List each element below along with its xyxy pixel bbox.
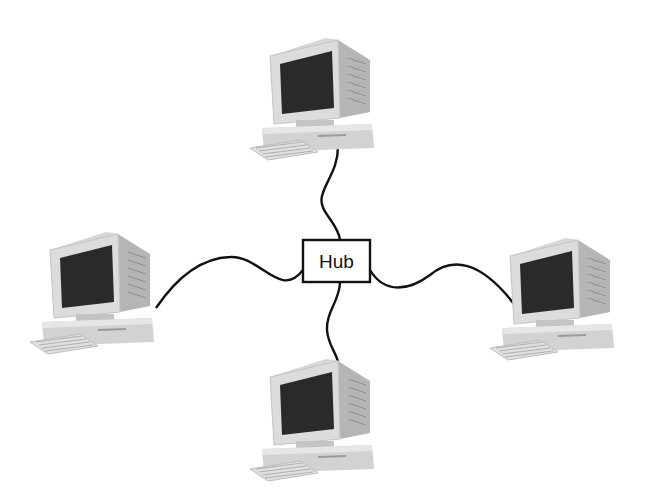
desktop-computer-icon [250, 38, 374, 160]
cable-hub-to-right [370, 264, 520, 312]
hub-label: Hub [319, 251, 354, 272]
hub-box: Hub [303, 240, 370, 282]
desktop-computer-icon [250, 359, 374, 481]
cable-hub-to-bottom [327, 282, 340, 362]
computer-bottom [250, 359, 374, 481]
cable-hub-to-left [156, 257, 303, 308]
cable-hub-to-top [321, 146, 340, 240]
computer-top [250, 38, 374, 160]
star-topology-diagram: Hub [0, 0, 654, 495]
computer-left [30, 232, 154, 354]
desktop-computer-icon [30, 232, 154, 354]
